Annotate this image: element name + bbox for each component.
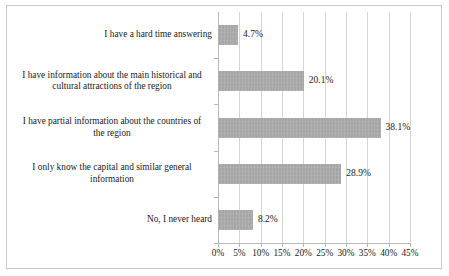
category-axis-tick bbox=[214, 197, 218, 198]
bar[interactable] bbox=[218, 118, 381, 138]
bar-value-label: 8.2% bbox=[253, 215, 278, 225]
x-axis-tick bbox=[303, 243, 304, 247]
bar[interactable] bbox=[218, 210, 253, 230]
x-axis-tick bbox=[325, 243, 326, 247]
category-label: No, I never heard bbox=[12, 214, 212, 225]
bar-row: 20.1% bbox=[218, 71, 410, 91]
category-label-line: I only know the capital and similar gene… bbox=[12, 162, 212, 173]
category-axis-tick bbox=[214, 104, 218, 105]
x-axis-tick bbox=[346, 243, 347, 247]
x-axis-tick bbox=[282, 243, 283, 247]
x-axis-tick bbox=[239, 243, 240, 247]
x-axis-tick bbox=[367, 243, 368, 247]
x-axis-tick-label: 45% bbox=[390, 249, 430, 258]
x-axis-tick bbox=[389, 243, 390, 247]
category-axis-tick bbox=[214, 243, 218, 244]
category-axis-tick bbox=[214, 58, 218, 59]
category-label-line: I have partial information about the cou… bbox=[12, 116, 212, 127]
bar-row: 38.1% bbox=[218, 118, 410, 138]
bar-row: 4.7% bbox=[218, 25, 410, 45]
category-label: I only know the capital and similar gene… bbox=[12, 162, 212, 185]
x-axis-tick bbox=[410, 243, 411, 247]
bar[interactable] bbox=[218, 164, 341, 184]
category-label-line: information bbox=[12, 174, 212, 185]
x-axis-tick bbox=[218, 243, 219, 247]
category-label-line: the region bbox=[12, 128, 212, 139]
bar-value-label: 4.7% bbox=[238, 30, 263, 40]
category-axis-tick bbox=[214, 151, 218, 152]
x-axis-tick bbox=[261, 243, 262, 247]
bar[interactable] bbox=[218, 71, 304, 91]
category-label-line: cultural attractions of the region bbox=[12, 81, 212, 92]
category-label-line: I have information about the main histor… bbox=[12, 70, 212, 81]
bar[interactable] bbox=[218, 25, 238, 45]
bar-value-label: 20.1% bbox=[304, 77, 334, 87]
bar-value-label: 38.1% bbox=[381, 123, 411, 133]
value-axis-line bbox=[218, 243, 410, 244]
bar-row: 28.9% bbox=[218, 164, 410, 184]
category-label: I have partial information about the cou… bbox=[12, 116, 212, 139]
bar-row: 8.2% bbox=[218, 210, 410, 230]
category-label: I have a hard time answering bbox=[12, 29, 212, 40]
category-label-line: No, I never heard bbox=[12, 214, 212, 225]
category-label-line: I have a hard time answering bbox=[12, 29, 212, 40]
bar-value-label: 28.9% bbox=[341, 169, 371, 179]
bar-chart-figure: 0%5%10%15%20%25%30%35%40%45%4.7%I have a… bbox=[0, 0, 449, 276]
category-label: I have information about the main histor… bbox=[12, 70, 212, 93]
